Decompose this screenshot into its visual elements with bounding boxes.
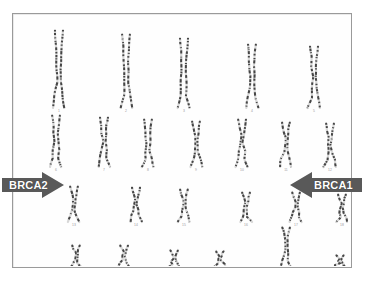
chromosome-image (175, 189, 193, 222)
chromosome-number-label: 1 (50, 109, 68, 113)
photo-inner: 12345678910111213141516171819202122XY (14, 15, 350, 266)
chromosome-pair: 20 (115, 245, 133, 266)
chromosome-image (233, 119, 251, 167)
chromosome-image (127, 187, 145, 222)
chromosome-image (331, 255, 349, 266)
chromosome-pair: 16 (237, 192, 255, 222)
chromosome-image (117, 34, 135, 108)
chromosome-pair: 12 (321, 123, 339, 167)
chromosome-pair: 18 (333, 194, 350, 222)
chromosome-pair: Y (331, 255, 349, 266)
chromosome-pair: X (277, 227, 295, 266)
chromosome-image (243, 44, 261, 108)
chromosome-pair: 13 (65, 186, 83, 222)
chromosome-pair: 7 (95, 117, 113, 167)
photo-frame: 12345678910111213141516171819202122XY (12, 13, 352, 268)
chromosome-number-label: 3 (175, 109, 193, 113)
chromosome-pair: 22 (211, 251, 229, 266)
chromosome-number-label: 13 (65, 223, 83, 227)
chromosome-image (95, 117, 113, 167)
chromosome-image (277, 227, 295, 266)
karyotype-figure: 12345678910111213141516171819202122XY BR… (0, 0, 367, 281)
chromosome-image (139, 119, 157, 167)
chromosome-pair: 11 (277, 122, 295, 167)
chromosome-pair: 2 (117, 34, 135, 108)
chromosome-image (165, 250, 183, 266)
chromosome-number-label: 2 (117, 109, 135, 113)
chromosome-image (321, 123, 339, 167)
chromosome-image (305, 46, 323, 108)
karyotype-plate: 12345678910111213141516171819202122XY (14, 15, 350, 266)
chromosome-pair: 6 (47, 115, 65, 167)
chromosome-pair: 14 (127, 187, 145, 222)
chromosome-pair: 9 (187, 121, 205, 167)
chromosome-image (115, 245, 133, 266)
chromosome-number-label: 8 (139, 168, 157, 172)
chromosome-number-label: 7 (95, 168, 113, 172)
chromosome-image (67, 245, 85, 266)
chromosome-number-label: 16 (237, 223, 255, 227)
chromosome-pair: 19 (67, 245, 85, 266)
chromosome-image (65, 186, 83, 222)
chromosome-image (277, 122, 295, 167)
chromosome-pair: 21 (165, 250, 183, 266)
chromosome-pair: 1 (50, 30, 68, 108)
brca1-annotation-arrow: BRCA1 (290, 172, 362, 198)
chromosome-image (333, 194, 350, 222)
chromosome-image (211, 251, 229, 266)
chromosome-image (237, 192, 255, 222)
chromosome-image (187, 121, 205, 167)
brca2-label: BRCA2 (9, 172, 48, 198)
chromosome-number-label: 10 (233, 168, 251, 172)
chromosome-number-label: 5 (305, 109, 323, 113)
chromosome-number-label: 4 (243, 109, 261, 113)
chromosome-number-label: 9 (187, 168, 205, 172)
brca2-annotation-arrow: BRCA2 (2, 172, 64, 198)
chromosome-pair: 4 (243, 44, 261, 108)
chromosome-pair: 3 (175, 38, 193, 108)
chromosome-image (47, 115, 65, 167)
chromosome-pair: 15 (175, 189, 193, 222)
brca1-label: BRCA1 (314, 172, 353, 198)
chromosome-number-label: 14 (127, 223, 145, 227)
chromosome-number-label: 15 (175, 223, 193, 227)
chromosome-pair: 10 (233, 119, 251, 167)
chromosome-pair: 8 (139, 119, 157, 167)
chromosome-number-label: 18 (333, 223, 350, 227)
chromosome-pair: 5 (305, 46, 323, 108)
chromosome-image (50, 30, 68, 108)
chromosome-image (175, 38, 193, 108)
